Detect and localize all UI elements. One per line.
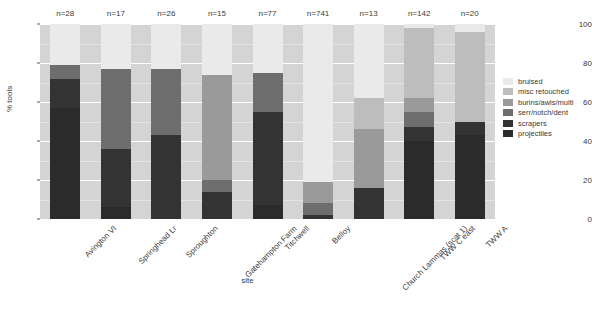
legend-label: serr/notch/dent [518, 108, 568, 117]
bar-segment [101, 24, 131, 69]
bar-segment [151, 24, 181, 69]
legend-swatch [503, 78, 513, 85]
bar-segment [404, 98, 434, 112]
legend-item: misc retouched [503, 87, 573, 96]
legend-label: bruised [518, 77, 543, 86]
bar-segment [455, 135, 485, 219]
bar-segment [202, 75, 232, 180]
bar-segment [50, 24, 80, 65]
legend-label: burins/awls/multi [518, 98, 573, 107]
stacked-bar [303, 24, 333, 219]
bar-segment [303, 24, 333, 182]
plot-area [40, 24, 495, 219]
y-axis-tick-label: 20 [558, 176, 592, 185]
y-axis-tick-label: 100 [558, 20, 592, 29]
stacked-bar [50, 24, 80, 219]
bar-segment [151, 135, 181, 219]
bar-segment [151, 69, 181, 135]
bar-segment [253, 205, 283, 219]
legend-item: projectiles [503, 129, 573, 138]
bar-segment [50, 108, 80, 219]
bar-segment [354, 129, 384, 188]
bar-segment [253, 73, 283, 112]
bar-segment [404, 112, 434, 128]
bar-segment [455, 122, 485, 136]
sample-size-label: n=20 [440, 9, 500, 18]
legend-label: scrapers [518, 119, 547, 128]
stacked-bar [455, 24, 485, 219]
bar-segment [202, 180, 232, 192]
legend-item: scrapers [503, 119, 573, 128]
bar-segment [50, 79, 80, 108]
x-axis-tick-label: Avington VI [83, 224, 118, 259]
bar-segment [303, 182, 333, 203]
bar-segment [303, 215, 333, 219]
bar-segment [253, 112, 283, 206]
x-axis-label: site [0, 276, 495, 285]
x-axis-tick-label: Belloy [330, 224, 352, 246]
y-axis-tick-label: 0 [558, 215, 592, 224]
legend-item: burins/awls/multi [503, 98, 573, 107]
stacked-bar [151, 24, 181, 219]
bar-segment [404, 141, 434, 219]
bar-segment [253, 24, 283, 73]
y-axis-tick-label: 80 [558, 59, 592, 68]
legend-swatch [503, 130, 513, 137]
legend-swatch [503, 99, 513, 106]
bar-segment [354, 188, 384, 219]
legend-swatch [503, 109, 513, 116]
y-axis-label: % tools [5, 86, 14, 112]
chart-container: % tools 020406080100 n=28n=17n=26n=15n=7… [0, 0, 592, 311]
x-axis-tick-label: Sproughton [184, 224, 220, 260]
bar-segment [101, 149, 131, 208]
gridline [40, 219, 495, 220]
stacked-bar [202, 24, 232, 219]
bar-segment [404, 24, 434, 28]
legend-label: projectiles [518, 129, 552, 138]
bar-segment [101, 207, 131, 219]
legend-item: bruised [503, 77, 573, 86]
bar-segment [202, 24, 232, 75]
legend-label: misc retouched [518, 87, 569, 96]
bar-segment [354, 24, 384, 98]
bar-segment [455, 24, 485, 32]
bar-segment [50, 65, 80, 79]
bar-segment [404, 28, 434, 98]
x-axis-tick-label: Gatehampton Farm [243, 224, 298, 279]
legend-item: serr/notch/dent [503, 108, 573, 117]
x-axis-tick-label: Springhead Lr [137, 224, 179, 266]
bar-segment [404, 127, 434, 141]
bar-segment [455, 32, 485, 122]
bar-segment [202, 192, 232, 219]
bar-segment [354, 98, 384, 129]
stacked-bar [404, 24, 434, 219]
bar-segment [303, 203, 333, 215]
x-axis-tick-label: TWW A [484, 224, 510, 250]
bar-segment [101, 69, 131, 149]
stacked-bar [354, 24, 384, 219]
legend-swatch [503, 88, 513, 95]
legend-swatch [503, 120, 513, 127]
legend: bruisedmisc retouchedburins/awls/multise… [503, 77, 573, 139]
stacked-bar [253, 24, 283, 219]
stacked-bar [101, 24, 131, 219]
